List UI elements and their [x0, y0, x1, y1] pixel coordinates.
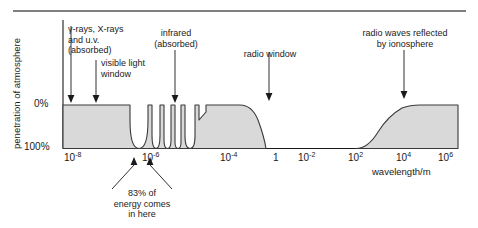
annotation-energy-callout: 83% of energy comes in here [92, 188, 192, 220]
x-tick-1e2: 102 [348, 150, 363, 164]
figure-atmospheric-penetration: penetration of atmosphere 0% 100% 10-8 1… [0, 0, 478, 228]
x-tick-1e4: 104 [396, 150, 411, 164]
annotation-gamma-xray-uv: γ-rays, X-rays and u.v. (absorbed) [68, 24, 124, 56]
absorption-area-group [63, 105, 458, 149]
annotation-visible-light-window: visible light window [101, 58, 145, 79]
y-axis-label: penetration of atmosphere [11, 34, 22, 154]
x-tick-1e-8: 10-8 [64, 150, 81, 164]
x-tick-1e-4: 10-4 [220, 150, 237, 164]
x-tick-1e6: 106 [438, 150, 453, 164]
annotation-radio-waves-reflected: radio waves reflected by ionosphere [346, 28, 464, 49]
annotation-arrowheads [68, 91, 408, 103]
x-tick-1e-6: 10-6 [142, 150, 159, 164]
short-wavelength-absorption-region [63, 105, 266, 149]
annotation-infrared-absorbed: infrared (absorbed) [145, 28, 207, 49]
x-tick-1e-2: 10-2 [298, 150, 315, 164]
annotation-radio-window: radio window [234, 49, 306, 60]
ionosphere-reflection-region [356, 105, 458, 149]
y-tick-100pct: 100% [24, 142, 50, 153]
x-tick-1: 1 [273, 150, 279, 164]
x-axis-label: wavelength/m [372, 167, 431, 178]
y-tick-0pct: 0% [34, 99, 48, 110]
